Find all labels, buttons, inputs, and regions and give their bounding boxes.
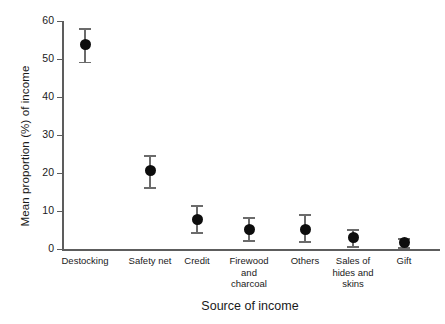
error-bar-cap-upper (144, 155, 156, 157)
error-bar-cap-lower (299, 241, 311, 243)
chart-figure: Mean proportion (%) of income 0102030405… (0, 0, 445, 324)
y-axis-line (62, 21, 64, 250)
x-axis-line (62, 249, 440, 251)
data-marker (300, 224, 311, 235)
x-category-label-line: Destocking (52, 255, 118, 267)
x-category-label-line: charcoal (216, 278, 282, 290)
error-bar-cap-upper (347, 229, 359, 231)
x-category-label: Gift (371, 255, 437, 267)
y-tick: 20 (57, 173, 62, 174)
error-bar-cap-upper (191, 205, 203, 207)
y-tick-label: 20 (42, 166, 54, 179)
y-tick-label: 30 (42, 128, 54, 141)
y-tick: 40 (57, 97, 62, 98)
y-tick-label: 10 (42, 204, 54, 217)
y-tick-label: 0 (48, 242, 54, 255)
x-category-label: Destocking (52, 255, 118, 267)
x-category-label-line: hides and (320, 267, 386, 279)
x-axis-title: Source of income (60, 299, 440, 313)
y-tick: 60 (57, 21, 62, 22)
data-marker (192, 214, 203, 225)
plot-area: 0102030405060 DestockingSafety netCredit… (62, 21, 440, 249)
y-tick-label: 60 (42, 14, 54, 27)
error-bar-cap-lower (79, 62, 91, 64)
error-bar-cap-lower (144, 187, 156, 189)
data-marker (80, 39, 91, 50)
x-category-label-line: Gift (371, 255, 437, 267)
y-tick: 50 (57, 59, 62, 60)
y-tick-label: 40 (42, 90, 54, 103)
data-marker (145, 165, 156, 176)
error-bar-cap-lower (347, 246, 359, 248)
y-tick-label: 50 (42, 52, 54, 65)
y-tick: 10 (57, 211, 62, 212)
x-category-label-line: and (216, 267, 282, 279)
x-category-label-line: skins (320, 278, 386, 290)
y-tick: 0 (57, 249, 62, 250)
y-tick: 30 (57, 135, 62, 136)
error-bar-cap-upper (299, 214, 311, 216)
error-bar-cap-upper (79, 28, 91, 30)
data-marker (244, 224, 255, 235)
data-marker (399, 237, 410, 248)
error-bar-cap-lower (243, 240, 255, 242)
data-marker (348, 232, 359, 243)
y-axis-title: Mean proportion (%) of income (19, 36, 31, 256)
error-bar-cap-upper (243, 217, 255, 219)
error-bar-cap-lower (191, 232, 203, 234)
